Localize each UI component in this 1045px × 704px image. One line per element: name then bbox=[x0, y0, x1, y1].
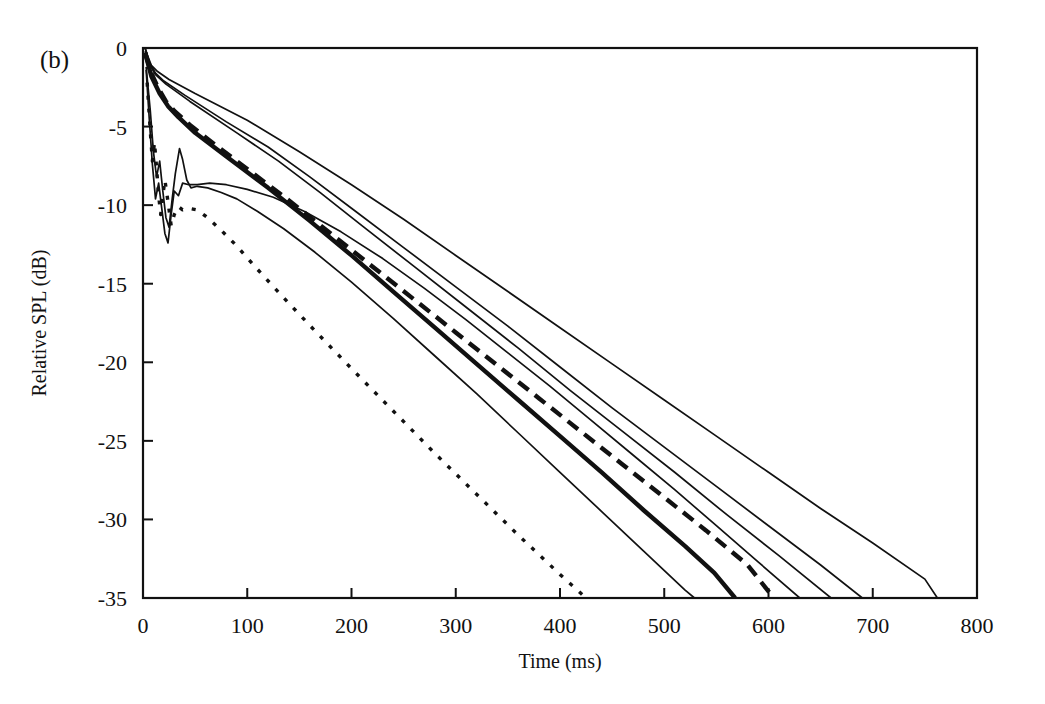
y-tick-label: 0 bbox=[116, 36, 127, 61]
figure-container: (b) 0100200300400500600700800 0-5-10-15-… bbox=[0, 0, 1045, 704]
x-tick-label: 700 bbox=[856, 613, 889, 638]
y-tick-label: -10 bbox=[98, 193, 127, 218]
x-tick-label: 600 bbox=[752, 613, 785, 638]
decay-curve-chart: (b) 0100200300400500600700800 0-5-10-15-… bbox=[0, 0, 1045, 704]
x-tick-label: 100 bbox=[231, 613, 264, 638]
x-tick-label: 200 bbox=[335, 613, 368, 638]
x-tick-label: 500 bbox=[648, 613, 681, 638]
y-tick-label: -35 bbox=[98, 586, 127, 611]
y-tick-label: -25 bbox=[98, 429, 127, 454]
x-axis-title: Time (ms) bbox=[518, 650, 601, 673]
y-tick-label: -15 bbox=[98, 272, 127, 297]
y-tick-label: -30 bbox=[98, 507, 127, 532]
y-tick-label: -5 bbox=[109, 115, 127, 140]
panel-label: (b) bbox=[40, 46, 69, 74]
x-tick-label: 0 bbox=[138, 613, 149, 638]
y-tick-label: -20 bbox=[98, 350, 127, 375]
x-tick-label: 800 bbox=[961, 613, 994, 638]
x-tick-label: 300 bbox=[439, 613, 472, 638]
x-tick-label: 400 bbox=[544, 613, 577, 638]
y-axis-title: Relative SPL (dB) bbox=[28, 249, 51, 396]
